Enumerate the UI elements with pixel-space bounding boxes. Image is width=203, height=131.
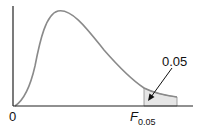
critical-value-label: F0.05 (130, 110, 155, 127)
tail-area-label: 0.05 (162, 55, 187, 68)
density-curve (15, 11, 177, 106)
arrow-line (151, 68, 172, 97)
critical-label-main: F (130, 109, 138, 124)
critical-label-sub: 0.05 (138, 117, 156, 127)
origin-label: 0 (9, 110, 16, 123)
